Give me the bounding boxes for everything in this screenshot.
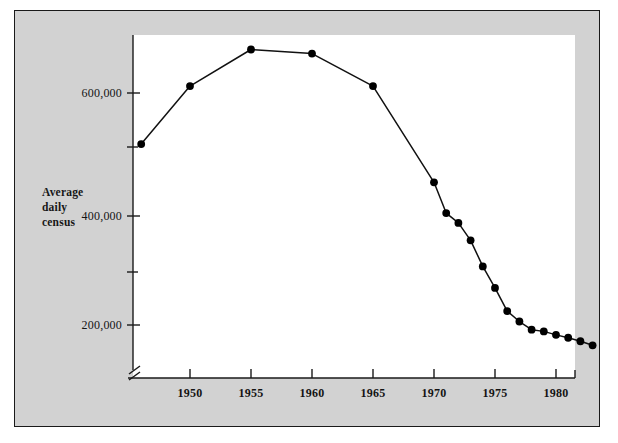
data-point bbox=[540, 327, 548, 335]
data-point bbox=[528, 326, 536, 334]
figure-container: Average daily census 600,000 400,000 200… bbox=[0, 0, 618, 443]
data-point bbox=[455, 219, 463, 227]
data-point bbox=[467, 236, 475, 244]
data-point bbox=[430, 178, 438, 186]
data-point bbox=[552, 331, 560, 339]
data-point bbox=[491, 284, 499, 292]
series-line bbox=[141, 50, 592, 346]
data-point bbox=[186, 82, 194, 90]
x-axis-ticks bbox=[190, 369, 556, 378]
data-point bbox=[442, 209, 450, 217]
data-point bbox=[247, 46, 255, 54]
data-point bbox=[308, 50, 316, 58]
series-markers bbox=[137, 46, 596, 350]
data-point bbox=[589, 341, 597, 349]
data-point bbox=[479, 263, 487, 271]
chart-svg bbox=[0, 0, 618, 443]
data-point bbox=[503, 307, 511, 315]
data-point bbox=[137, 140, 145, 148]
data-point bbox=[577, 337, 585, 345]
data-point bbox=[369, 82, 377, 90]
data-point bbox=[516, 318, 524, 326]
data-point bbox=[564, 334, 572, 342]
